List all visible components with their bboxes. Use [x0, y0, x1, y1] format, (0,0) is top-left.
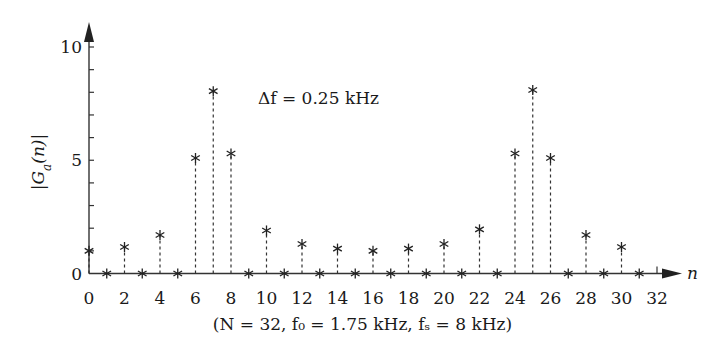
star-marker-icon	[227, 148, 236, 158]
x-tick-label: 4	[155, 288, 166, 308]
x-tick-label: 0	[84, 288, 95, 308]
x-axis-arrow-icon	[662, 269, 682, 279]
delta-f-annotation: Δf = 0.25 kHz	[258, 88, 379, 108]
y-axis-arrow-icon	[84, 22, 94, 42]
x-tick-label: 6	[190, 288, 201, 308]
axes: 051002468101214161820222426283032	[60, 22, 682, 308]
star-marker-icon	[511, 148, 520, 158]
star-marker-icon	[333, 244, 342, 254]
x-tick-label: 18	[398, 288, 420, 308]
y-axis-label: |Ga(n)|	[28, 134, 54, 190]
y-tick-label: 0	[71, 264, 82, 284]
star-marker-icon	[617, 242, 626, 252]
star-marker-icon	[120, 242, 129, 252]
star-marker-icon	[440, 239, 449, 249]
x-tick-label: 28	[575, 288, 597, 308]
x-tick-label: 20	[433, 288, 455, 308]
star-marker-icon	[582, 230, 591, 240]
star-marker-icon	[546, 153, 555, 163]
star-marker-icon	[528, 85, 537, 95]
x-tick-label: 32	[646, 288, 668, 308]
star-marker-icon	[209, 86, 218, 96]
data-stems	[85, 85, 644, 278]
x-tick-label: 12	[291, 288, 313, 308]
y-tick-label: 10	[60, 37, 82, 57]
x-tick-label: 30	[611, 288, 633, 308]
y-tick-label: 5	[71, 150, 82, 170]
star-marker-icon	[262, 225, 271, 235]
star-marker-icon	[191, 153, 200, 163]
x-tick-label: 10	[256, 288, 278, 308]
x-axis-label: n	[687, 263, 698, 283]
star-marker-icon	[369, 246, 378, 256]
star-marker-icon	[475, 224, 484, 234]
stem-plot: 051002468101214161820222426283032 Δf = 0…	[0, 0, 725, 362]
x-tick-label: 14	[327, 288, 349, 308]
x-tick-label: 2	[119, 288, 130, 308]
x-tick-label: 26	[540, 288, 562, 308]
x-tick-label: 16	[362, 288, 384, 308]
star-marker-icon	[404, 244, 413, 254]
parameters-caption: (N = 32, f₀ = 1.75 kHz, fₛ = 8 kHz)	[0, 314, 725, 334]
x-tick-label: 24	[504, 288, 526, 308]
star-marker-icon	[298, 239, 307, 249]
svg-text:|Ga(n)|: |Ga(n)|	[28, 134, 54, 190]
x-tick-label: 8	[226, 288, 237, 308]
x-tick-label: 22	[469, 288, 491, 308]
star-marker-icon	[156, 230, 165, 240]
